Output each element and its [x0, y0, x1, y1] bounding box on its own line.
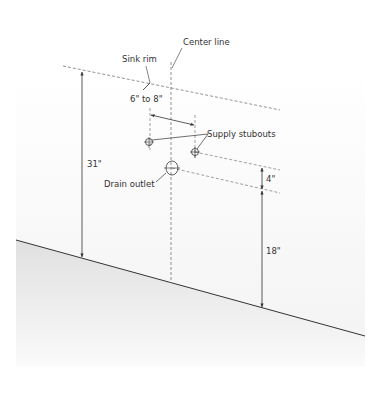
leader-center-line: [172, 48, 182, 68]
sink-rim-label: Sink rim: [122, 54, 157, 64]
spacing-label: 6" to 8": [130, 94, 163, 104]
rim-height-label: 31": [87, 159, 102, 169]
stubout-offset-label: 4": [266, 174, 275, 184]
drain-height-label: 18": [266, 246, 281, 256]
supply-stubouts-label: Supply stubouts: [207, 129, 276, 139]
rough-in-diagram: Sink rim Center line 6" to 8" Supply stu…: [0, 0, 382, 394]
center-line-label: Center line: [183, 37, 230, 47]
drain-outlet-label: Drain outlet: [104, 179, 155, 189]
